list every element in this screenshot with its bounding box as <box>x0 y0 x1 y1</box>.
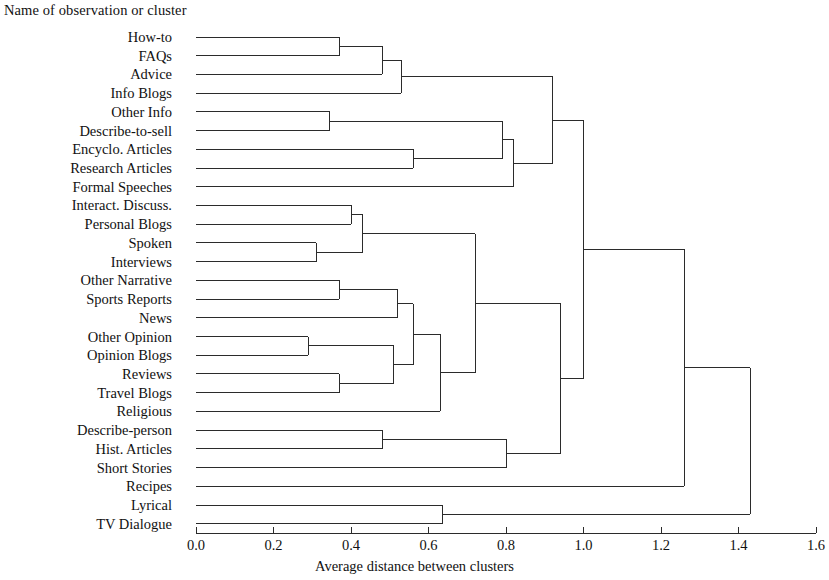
x-axis-tick-label: 0.6 <box>419 537 437 553</box>
x-axis-tick-label: 1.0 <box>574 537 592 553</box>
x-axis-tick-label: 1.6 <box>807 537 825 553</box>
value-axis-title: Average distance between clusters <box>0 558 829 575</box>
x-axis-tick-label: 1.2 <box>652 537 670 553</box>
x-axis-tick-label: 0.4 <box>342 537 361 553</box>
x-axis: 0.00.20.40.60.81.01.21.41.6 <box>187 527 825 553</box>
x-axis-tick-label: 1.4 <box>729 537 748 553</box>
x-axis-tick-label: 0.2 <box>264 537 282 553</box>
dendrogram-figure: Name of observation or cluster How-toFAQ… <box>0 0 829 580</box>
dendrogram-tree <box>196 37 750 524</box>
dendrogram-plot: 0.00.20.40.60.81.01.21.41.6 <box>0 0 829 580</box>
x-axis-tick-label: 0.0 <box>187 537 205 553</box>
x-axis-tick-label: 0.8 <box>497 537 515 553</box>
